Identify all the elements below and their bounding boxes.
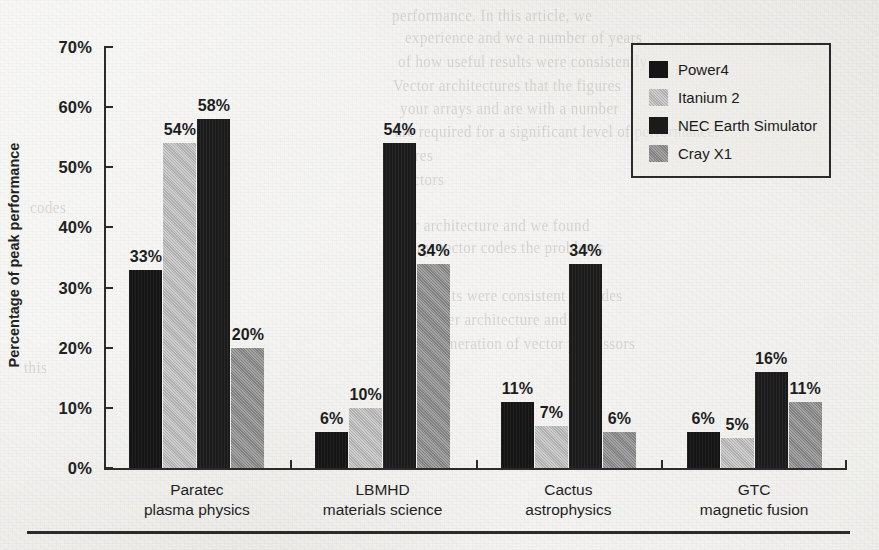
bar-lbmhd-itanium-2 bbox=[349, 408, 382, 468]
x-group-separator-tick bbox=[290, 460, 292, 468]
legend-color-swatch bbox=[649, 117, 668, 134]
x-axis-end-tick bbox=[104, 460, 106, 468]
bar-value-label: 33% bbox=[130, 248, 162, 266]
bar-value-label: 34% bbox=[569, 242, 601, 260]
category-name: LBMHD bbox=[323, 480, 443, 500]
y-tick-label: 60% bbox=[28, 98, 92, 117]
category-sublabel: astrophysics bbox=[525, 500, 611, 520]
y-tick-label: 10% bbox=[28, 398, 92, 417]
bar-value-label: 5% bbox=[725, 416, 748, 434]
y-tick-label: 20% bbox=[28, 338, 92, 357]
bar-value-label: 16% bbox=[755, 350, 787, 368]
legend-color-swatch bbox=[649, 61, 668, 78]
x-axis-end-tick bbox=[845, 460, 847, 468]
bar-value-label: 6% bbox=[608, 410, 631, 428]
bar-cactus-itanium-2 bbox=[535, 426, 568, 468]
bar-value-label: 11% bbox=[502, 380, 533, 398]
bar-value-label: 10% bbox=[349, 386, 381, 404]
legend-label: NEC Earth Simulator bbox=[678, 117, 817, 134]
category-sublabel: materials science bbox=[323, 500, 443, 520]
category-name: GTC bbox=[700, 480, 809, 500]
bar-paratec-nec-earth-simulator bbox=[197, 119, 230, 468]
bar-gtc-nec-earth-simulator bbox=[755, 372, 788, 468]
bar-paratec-cray-x1 bbox=[231, 348, 264, 468]
y-tick-label: 50% bbox=[28, 158, 92, 177]
bar-value-label: 7% bbox=[540, 404, 563, 422]
category-sublabel: plasma physics bbox=[144, 500, 250, 520]
category-sublabel: magnetic fusion bbox=[700, 500, 809, 520]
y-tick-label: 70% bbox=[28, 38, 92, 57]
x-category-label-lbmhd: LBMHDmaterials science bbox=[323, 480, 443, 520]
bar-paratec-itanium-2 bbox=[163, 143, 196, 468]
x-category-label-cactus: Cactusastrophysics bbox=[525, 480, 611, 520]
legend-color-swatch bbox=[649, 89, 668, 106]
bar-gtc-itanium-2 bbox=[721, 438, 754, 468]
legend-item-cray-x1: Cray X1 bbox=[649, 139, 829, 167]
bar-value-label: 6% bbox=[691, 410, 714, 428]
bar-lbmhd-cray-x1 bbox=[417, 264, 450, 468]
bar-gtc-cray-x1 bbox=[789, 402, 822, 468]
bar-value-label: 6% bbox=[320, 410, 343, 428]
legend-item-nec-earth-simulator: NEC Earth Simulator bbox=[649, 111, 829, 139]
legend-item-itanium-2: Itanium 2 bbox=[649, 83, 829, 111]
bar-value-label: 20% bbox=[232, 326, 264, 344]
y-tick-label: 30% bbox=[28, 278, 92, 297]
bar-gtc-power4 bbox=[687, 432, 720, 468]
bar-cactus-cray-x1 bbox=[603, 432, 636, 468]
x-group-separator-tick bbox=[476, 460, 478, 468]
bar-lbmhd-power4 bbox=[315, 432, 348, 468]
y-axis-spine bbox=[104, 47, 106, 470]
x-category-label-paratec: Paratecplasma physics bbox=[144, 480, 250, 520]
bar-paratec-power4 bbox=[129, 270, 162, 468]
figure-bottom-rule bbox=[27, 531, 850, 534]
x-axis-spine bbox=[104, 468, 847, 470]
legend-label: Cray X1 bbox=[678, 145, 732, 162]
legend-label: Power4 bbox=[678, 61, 729, 78]
x-group-separator-tick bbox=[661, 460, 663, 468]
bar-value-label: 11% bbox=[789, 380, 820, 398]
legend-color-swatch bbox=[649, 145, 668, 162]
legend-label: Itanium 2 bbox=[678, 89, 740, 106]
y-tick-label: 40% bbox=[28, 218, 92, 237]
bar-value-label: 34% bbox=[417, 242, 449, 260]
bar-cactus-power4 bbox=[501, 402, 534, 468]
bar-cactus-nec-earth-simulator bbox=[569, 264, 602, 468]
category-name: Cactus bbox=[525, 480, 611, 500]
y-axis-title: Percentage of peak performance bbox=[6, 143, 22, 368]
bar-lbmhd-nec-earth-simulator bbox=[383, 143, 416, 468]
bar-value-label: 58% bbox=[198, 97, 230, 115]
bar-value-label: 54% bbox=[383, 121, 415, 139]
bar-value-label: 54% bbox=[164, 121, 196, 139]
y-tick-label: 0% bbox=[28, 459, 92, 478]
category-name: Paratec bbox=[144, 480, 250, 500]
x-category-label-gtc: GTCmagnetic fusion bbox=[700, 480, 809, 520]
legend-item-power4: Power4 bbox=[649, 55, 829, 83]
chart-legend: Power4Itanium 2NEC Earth SimulatorCray X… bbox=[631, 43, 831, 178]
